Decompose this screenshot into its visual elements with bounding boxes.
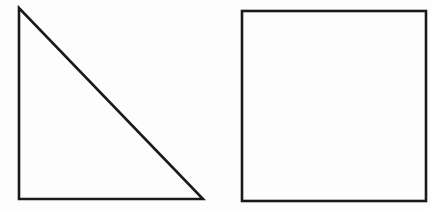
shapes-figure bbox=[0, 0, 431, 210]
right-triangle-shape bbox=[19, 8, 203, 199]
diagram-canvas bbox=[0, 0, 431, 210]
square-shape bbox=[242, 11, 426, 201]
